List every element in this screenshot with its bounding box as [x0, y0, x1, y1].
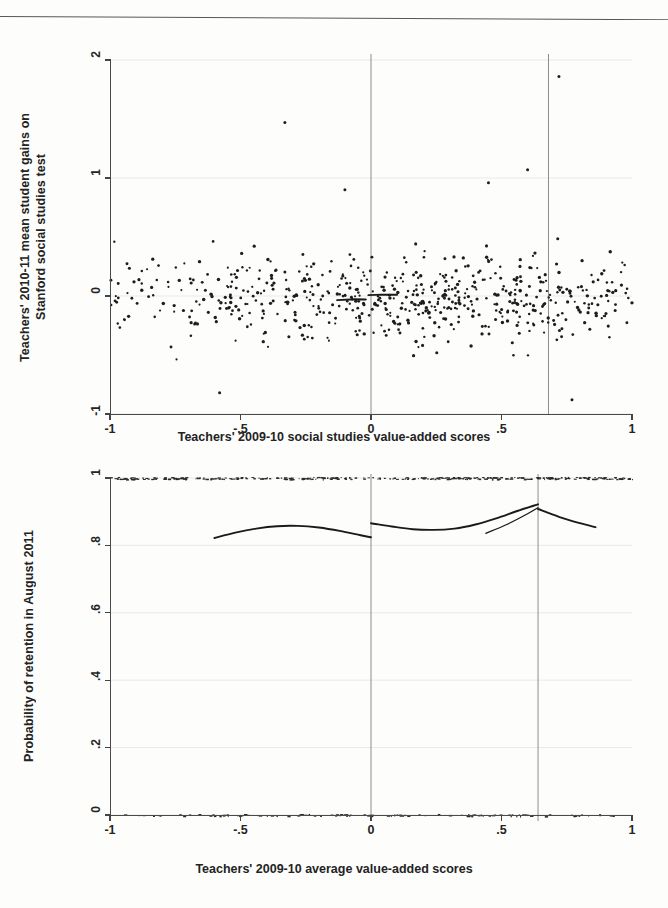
scatter-point: [462, 256, 465, 259]
scatter-point: [234, 340, 236, 342]
rug-tick: [574, 479, 577, 480]
scatter-point: [190, 334, 193, 337]
y-tick-mark: [105, 477, 111, 478]
x-tick-mark: [109, 815, 110, 821]
scatter-point: [383, 275, 386, 278]
scatter-point: [548, 296, 550, 298]
rug-tick: [561, 477, 563, 479]
scatter-point: [360, 312, 363, 315]
scatter-point: [557, 286, 560, 289]
scatter-point: [544, 273, 547, 276]
fit-local-fit-left: [337, 299, 366, 300]
rug-tick: [349, 477, 351, 478]
rug-tick: [467, 479, 468, 480]
scatter-point: [396, 315, 399, 318]
rug-tick: [510, 478, 513, 479]
scatter-point: [301, 279, 304, 282]
rug-tick: [143, 479, 146, 480]
scatter-point: [385, 308, 388, 311]
scatter-point: [439, 273, 441, 275]
scatter-point: [620, 271, 622, 273]
scatter-point: [303, 290, 306, 293]
scatter-point: [229, 296, 232, 299]
scatter-point: [383, 330, 386, 333]
y-tick-mark: [105, 612, 111, 613]
scatter-point: [420, 283, 423, 286]
scatter-point: [371, 308, 374, 311]
scatter-point: [328, 321, 331, 324]
scatter-point: [501, 288, 504, 291]
scatter-point: [207, 311, 210, 314]
x-tick-label: .5: [496, 824, 506, 837]
rug-tick: [454, 478, 457, 479]
scatter-point: [362, 271, 364, 273]
rug-tick: [281, 478, 283, 479]
scatter-point: [586, 294, 589, 297]
scatter-point: [611, 291, 614, 294]
scatter-point: [366, 278, 368, 280]
scatter-point: [443, 306, 445, 308]
scatter-point: [396, 280, 398, 282]
scatter-point: [437, 298, 440, 301]
scatter-point: [298, 270, 301, 273]
rug-tick: [327, 477, 329, 479]
scatter-point: [574, 301, 576, 303]
scatter-point: [212, 240, 215, 243]
scatter-point: [417, 304, 420, 307]
scatter-point: [560, 335, 563, 338]
scatter-point: [202, 298, 205, 301]
scatter-point: [472, 274, 475, 277]
scatter-point: [415, 271, 418, 274]
scatter-point: [352, 309, 355, 312]
scatter-point: [224, 296, 227, 299]
scatter-point: [443, 276, 446, 279]
scatter-point: [219, 307, 222, 310]
scatter-point: [380, 324, 382, 326]
rug-tick: [389, 478, 391, 479]
scatter-point: [306, 265, 308, 267]
scatter-point: [526, 321, 529, 324]
scatter-point: [494, 272, 497, 275]
scatter-point: [427, 311, 430, 314]
scatter-point: [488, 326, 490, 328]
scatter-point: [457, 321, 460, 324]
scatter-point-outlier: [526, 168, 529, 171]
scatter-point: [412, 354, 415, 357]
rug-tick: [393, 478, 394, 479]
scatter-point: [235, 287, 238, 290]
scatter-point: [458, 280, 460, 282]
scatter-point: [454, 294, 457, 297]
rug-tick: [421, 477, 423, 479]
scatter-point: [607, 300, 609, 302]
scatter-point: [532, 309, 535, 312]
scatter-point: [204, 289, 207, 292]
scatter-point: [334, 317, 337, 320]
scatter-point: [489, 277, 491, 279]
scatter-point: [397, 328, 400, 331]
y-axis-line: [110, 478, 111, 815]
scatter-point: [342, 295, 345, 298]
scatter-point: [614, 289, 617, 292]
rug-tick: [223, 479, 225, 480]
scatter-point: [414, 340, 417, 343]
series-fit-secondary-rise: [486, 508, 538, 534]
scatter-point: [265, 282, 268, 285]
scatter-point: [458, 302, 461, 305]
scatter-point: [298, 326, 301, 329]
rug-tick: [621, 479, 624, 480]
rug-tick: [556, 478, 559, 479]
x-tick-mark: [501, 414, 502, 420]
scatter-point: [495, 303, 498, 306]
scatter-point: [195, 300, 198, 303]
scatter-point: [175, 358, 177, 360]
rug-tick: [619, 478, 621, 480]
scatter-point: [394, 277, 396, 279]
scatter-point: [345, 308, 348, 311]
rug-tick: [594, 479, 597, 480]
scatter-point: [557, 271, 560, 274]
scatter-point: [556, 237, 559, 240]
scatter-point: [127, 315, 130, 318]
scatter-point: [308, 324, 310, 326]
scatter-point: [596, 303, 599, 306]
scatter-point: [430, 285, 433, 288]
